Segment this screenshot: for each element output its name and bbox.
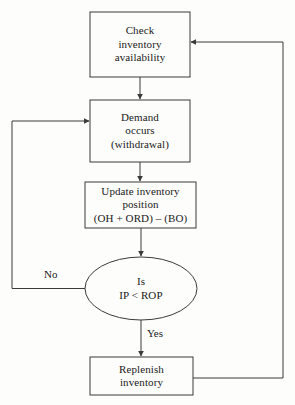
edge-label-no: No	[44, 268, 57, 280]
node-update-inventory-position	[85, 182, 196, 228]
edge-replenish-to-check-loop	[191, 42, 283, 378]
node-decision-is-ip-lt-rop	[85, 257, 197, 320]
edge-decision-no-to-demand-loop	[12, 121, 89, 289]
edge-label-yes: Yes	[147, 327, 163, 339]
flowchart-diagram: Check inventory availability Demand occu…	[0, 0, 295, 405]
flowchart-canvas	[0, 0, 295, 405]
node-replenish-inventory	[90, 357, 193, 395]
node-check-inventory-availability	[90, 12, 190, 77]
node-demand-occurs	[90, 100, 190, 162]
